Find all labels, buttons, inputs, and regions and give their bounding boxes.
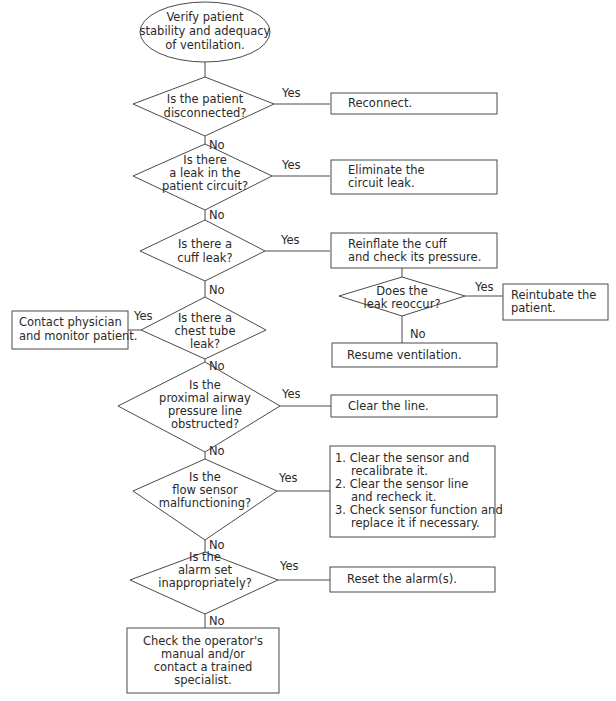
decision-text: Is the patient — [167, 92, 244, 106]
decision-text: cuff leak? — [177, 251, 232, 265]
action-reintubate: Reintubate the patient. — [503, 284, 608, 320]
start-line-2: stability and adequacy — [140, 24, 271, 38]
action-text: patient. — [511, 301, 556, 315]
decision-disconnected: Is the patient disconnected? — [133, 77, 274, 136]
decision-text: a leak in the — [169, 166, 240, 180]
start-oval: Verify patient stability and adequacy of… — [140, 2, 271, 62]
action-text: Clear the line. — [348, 399, 429, 413]
label-no: No — [209, 359, 225, 373]
action-clear-line: Clear the line. — [331, 395, 497, 417]
action-text: contact a trained — [154, 660, 253, 674]
decision-text: pressure line — [168, 404, 242, 418]
decision-text: proximal airway — [159, 391, 251, 405]
label-yes: Yes — [278, 471, 298, 485]
label-yes: Yes — [474, 280, 494, 294]
action-text: Reconnect. — [348, 96, 412, 110]
decision-text: Is there — [183, 153, 226, 167]
action-text: Resume ventilation. — [347, 348, 462, 362]
decision-leak-reoccur: Does the leak reoccur? — [339, 277, 465, 316]
label-no: No — [209, 208, 225, 222]
action-text: and recheck it. — [351, 490, 437, 504]
label-yes: Yes — [279, 559, 299, 573]
action-text: manual and/or — [161, 647, 245, 661]
action-reinflate-cuff: Reinflate the cuff and check its pressur… — [331, 233, 497, 268]
decision-text: leak reoccur? — [364, 297, 441, 311]
label-yes: Yes — [281, 158, 301, 172]
action-text: Contact physician — [19, 315, 122, 329]
action-text: Reinflate the cuff — [348, 237, 448, 251]
action-text: 2. Clear the sensor line — [335, 477, 468, 491]
decision-text: Is the — [189, 470, 221, 484]
decision-pressure-line: Is the proximal airway pressure line obs… — [118, 362, 280, 452]
decision-circuit-leak: Is there a leak in the patient circuit? — [133, 144, 272, 210]
action-text: Reset the alarm(s). — [347, 572, 457, 586]
decision-chest-tube-leak: Is there a chest tube leak? — [141, 297, 266, 359]
action-text: circuit leak. — [348, 176, 415, 190]
action-text: 1. Clear the sensor and — [335, 451, 469, 465]
action-text: 3. Check sensor function and — [335, 503, 503, 517]
decision-text: chest tube — [174, 324, 235, 338]
decision-flow-sensor: Is the flow sensor malfunctioning? — [133, 459, 277, 540]
decision-text: obstructed? — [171, 417, 239, 431]
decision-text: Is there a — [178, 237, 232, 251]
action-text: replace it if necessary. — [351, 516, 480, 530]
start-line-1: Verify patient — [166, 10, 244, 24]
decision-text: alarm set — [178, 563, 233, 577]
label-yes: Yes — [280, 233, 300, 247]
action-reconnect: Reconnect. — [331, 93, 497, 114]
action-text: and monitor patient. — [19, 329, 138, 343]
action-text: and check its pressure. — [348, 250, 481, 264]
label-yes: Yes — [281, 387, 301, 401]
label-yes: Yes — [281, 86, 301, 100]
decision-text: Is there a — [178, 311, 232, 325]
action-text: Eliminate the — [348, 163, 425, 177]
label-no: No — [209, 444, 225, 458]
label-no: No — [209, 538, 225, 552]
action-text: Reintubate the — [511, 288, 596, 302]
action-contact-physician: Contact physician and monitor patient. — [12, 311, 138, 349]
action-sensor-steps: 1. Clear the sensor and recalibrate it. … — [330, 446, 503, 537]
action-text: Check the operator's — [143, 634, 263, 648]
label-no: No — [209, 614, 225, 628]
start-line-3: of ventilation. — [165, 38, 245, 52]
action-text: specialist. — [174, 673, 231, 687]
decision-text: disconnected? — [164, 106, 247, 120]
action-reset-alarm: Reset the alarm(s). — [330, 567, 495, 592]
decision-text: Does the — [376, 284, 428, 298]
label-no: No — [209, 138, 225, 152]
action-eliminate-leak: Eliminate the circuit leak. — [331, 160, 497, 194]
decision-text: malfunctioning? — [159, 496, 251, 510]
decision-text: flow sensor — [172, 483, 238, 497]
decision-alarm-set: Is the alarm set inappropriately? — [130, 550, 278, 614]
action-check-manual: Check the operator's manual and/or conta… — [127, 628, 279, 693]
decision-text: Is the — [189, 550, 221, 564]
flowchart: Verify patient stability and adequacy of… — [0, 0, 616, 701]
decision-text: inappropriately? — [158, 576, 252, 590]
decision-cuff-leak: Is there a cuff leak? — [140, 220, 265, 281]
decision-text: Is the — [189, 378, 221, 392]
label-yes: Yes — [133, 309, 153, 323]
decision-text: leak? — [190, 337, 220, 351]
decision-text: patient circuit? — [162, 179, 248, 193]
action-text: recalibrate it. — [351, 464, 428, 478]
action-resume-ventilation: Resume ventilation. — [332, 343, 497, 367]
label-no: No — [209, 283, 225, 297]
label-no: No — [410, 327, 426, 341]
